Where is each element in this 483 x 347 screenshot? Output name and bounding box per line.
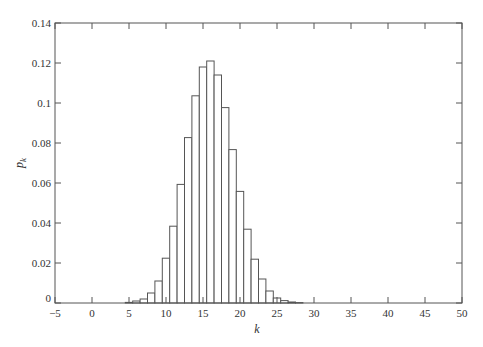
bars-group bbox=[125, 61, 303, 303]
y-tick-label: 0 bbox=[46, 292, 52, 304]
histogram-bar bbox=[140, 299, 147, 303]
x-tick-label: 35 bbox=[346, 307, 358, 319]
histogram-bar bbox=[185, 138, 192, 303]
y-tick-label: 0.02 bbox=[32, 257, 51, 269]
x-tick-label: 30 bbox=[309, 307, 321, 319]
histogram-bar bbox=[251, 259, 258, 303]
histogram-bar bbox=[199, 67, 206, 303]
histogram-bar bbox=[222, 108, 229, 303]
histogram-bar bbox=[148, 293, 155, 303]
histogram-bar bbox=[177, 184, 184, 303]
x-tick-label: 45 bbox=[420, 307, 432, 319]
y-tick-label: 0.08 bbox=[32, 137, 52, 149]
histogram-bar bbox=[170, 226, 177, 303]
x-tick-label: 25 bbox=[272, 307, 284, 319]
y-tick-label: 0.14 bbox=[32, 17, 52, 29]
histogram-bar bbox=[162, 258, 169, 303]
x-tick-label: 0 bbox=[89, 307, 95, 319]
x-tick-label: 5 bbox=[126, 307, 132, 319]
histogram-bar bbox=[229, 150, 236, 303]
y-tick-label: 0.06 bbox=[32, 177, 52, 189]
y-axis-label: pk bbox=[12, 157, 28, 169]
x-tick-label: 50 bbox=[457, 307, 469, 319]
x-tick-label: −5 bbox=[49, 307, 61, 319]
histogram-bar bbox=[244, 229, 251, 303]
histogram-bar bbox=[236, 191, 243, 303]
histogram-bar bbox=[259, 279, 266, 303]
y-tick-label: 0.1 bbox=[37, 97, 51, 109]
y-tick-labels: 00.020.040.060.080.10.120.14 bbox=[32, 17, 52, 304]
y-tick-label: 0.12 bbox=[32, 57, 51, 69]
x-axis-label: k bbox=[254, 322, 260, 336]
histogram-bar bbox=[207, 61, 214, 303]
y-tick-label: 0.04 bbox=[32, 217, 52, 229]
x-tick-label: 40 bbox=[383, 307, 395, 319]
histogram-bar bbox=[155, 281, 162, 303]
x-tick-labels: −505101520253035404550 bbox=[49, 307, 468, 319]
x-tick-label: 20 bbox=[235, 307, 247, 319]
x-tick-label: 15 bbox=[198, 307, 210, 319]
histogram-bar bbox=[266, 291, 273, 303]
histogram-bar bbox=[214, 75, 221, 303]
histogram-bar bbox=[192, 96, 199, 303]
x-tick-label: 10 bbox=[161, 307, 173, 319]
histogram-chart: −505101520253035404550 00.020.040.060.08… bbox=[0, 0, 483, 347]
